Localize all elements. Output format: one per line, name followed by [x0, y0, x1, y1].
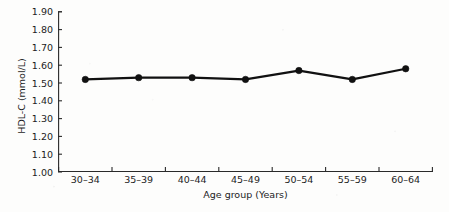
data-point: [136, 74, 142, 80]
x-tick-label: 50–54: [284, 174, 313, 185]
y-tick-label: 1.40: [32, 95, 53, 106]
data-point: [242, 76, 248, 82]
y-axis-title: HDL-C (mmol/L): [16, 58, 27, 134]
y-tick-label: 1.10: [32, 149, 53, 160]
series-markers-hdl-c: [82, 66, 409, 83]
y-tick-label: 1.70: [32, 42, 53, 53]
data-point: [189, 74, 195, 80]
data-point: [403, 66, 409, 72]
data-point: [82, 76, 88, 82]
x-tick-label: 40–44: [178, 174, 207, 185]
y-tick-label: 1.90: [32, 6, 53, 17]
data-point: [296, 67, 302, 73]
line-chart-plot: HDL-C (mmol/L) 1.00 1.10 1.20 1.30 1.40 …: [0, 0, 449, 212]
x-tick-label: 35–39: [124, 174, 153, 185]
y-tick-label: 1.80: [32, 24, 53, 35]
x-tick-label: 45–49: [231, 174, 260, 185]
x-tick-label: 60–64: [391, 174, 420, 185]
x-tick-label: 55–59: [338, 174, 367, 185]
x-axis-title: Age group (Years): [203, 189, 287, 200]
data-point: [349, 76, 355, 82]
x-tick-label: 30–34: [71, 174, 100, 185]
y-tick-label: 1.60: [32, 60, 53, 71]
y-tick-label: 1.20: [32, 131, 53, 142]
chart-figure: HDL-C (mmol/L) 1.00 1.10 1.20 1.30 1.40 …: [0, 0, 449, 212]
y-tick-label: 1.00: [32, 167, 53, 178]
x-axis-tick-marks: [59, 167, 433, 172]
y-axis-tick-labels: 1.00 1.10 1.20 1.30 1.40 1.50 1.60 1.70 …: [32, 6, 53, 177]
y-tick-label: 1.30: [32, 113, 53, 124]
x-axis-tick-labels: 30–34 35–39 40–44 45–49 50–54 55–59 60–6…: [71, 174, 420, 185]
y-axis-spine: [58, 12, 62, 172]
y-tick-label: 1.50: [32, 78, 53, 89]
